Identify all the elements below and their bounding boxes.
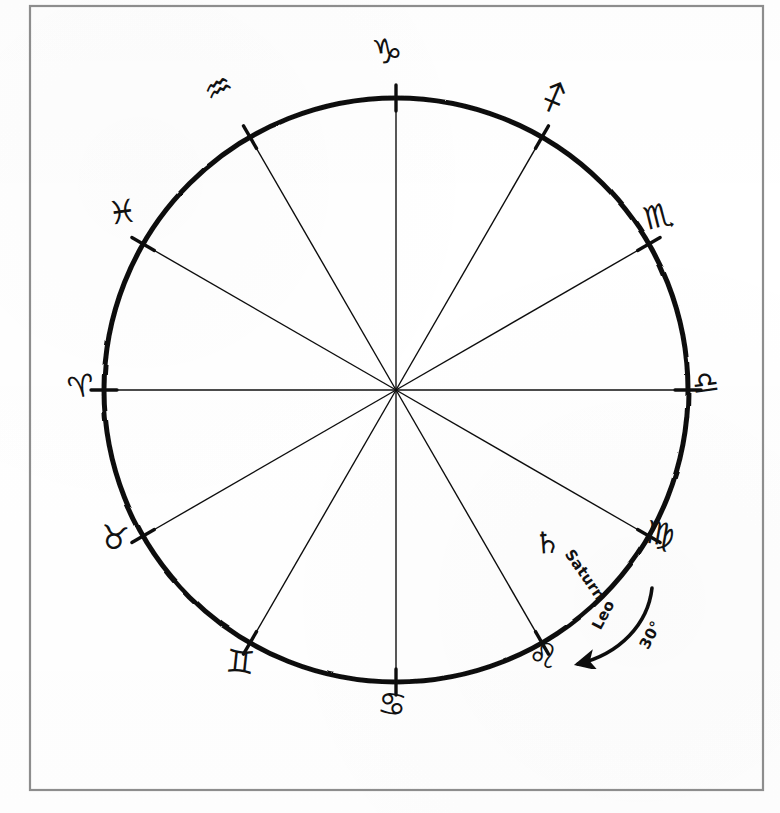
spoke-sagittarius — [396, 137, 542, 390]
spoke-taurus — [143, 390, 396, 536]
spoke-pisces — [143, 244, 396, 390]
paper-sheet: ♈♓♒♑♐♏♎♍♌♋♊♉♄SaturnLeo30° — [0, 0, 780, 813]
wheel-spokes — [104, 98, 688, 682]
spoke-scorpio — [396, 244, 649, 390]
spoke-gemini — [250, 390, 396, 643]
zodiac-wheel-diagram — [0, 0, 780, 813]
spoke-aquarius — [250, 137, 396, 390]
spoke-leo — [396, 390, 542, 643]
spoke-virgo — [396, 390, 649, 536]
leo-direction-arrow — [578, 588, 652, 664]
